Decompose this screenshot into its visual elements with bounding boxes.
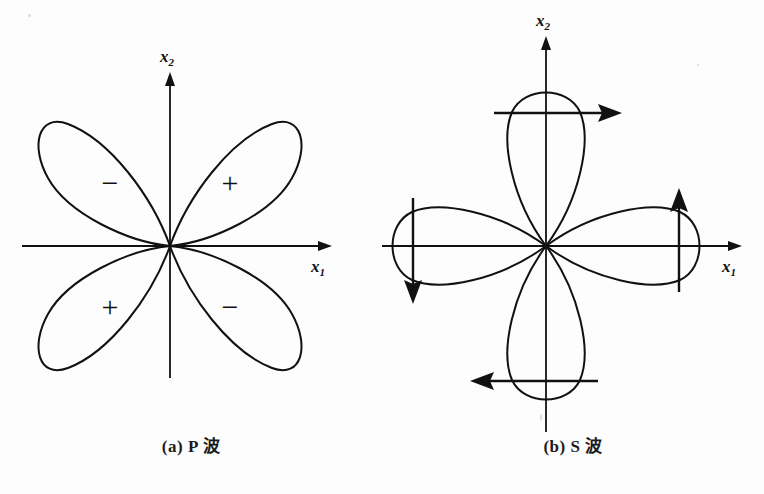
figure-root: − + + − x1 x2 (a) P 波 bbox=[0, 0, 764, 494]
scan-speck bbox=[540, 414, 542, 421]
p-wave-x-axis-label: x1 bbox=[310, 257, 325, 278]
p-wave-diagram: − + + − x1 x2 bbox=[0, 0, 382, 440]
panel-p-wave: − + + − x1 x2 (a) P 波 bbox=[0, 0, 382, 494]
s-wave-diagram: x1 x2 bbox=[382, 0, 764, 440]
panel-s-wave: x1 x2 (b) S 波 bbox=[382, 0, 764, 494]
p-wave-y-axis bbox=[165, 72, 175, 378]
s-wave-x-axis bbox=[382, 241, 742, 251]
scan-speck bbox=[697, 64, 699, 66]
p-wave-sign-lower-right: − bbox=[222, 290, 239, 323]
caption-s-wave: (b) S 波 bbox=[382, 432, 764, 457]
p-wave-y-axis-label: x2 bbox=[159, 47, 175, 68]
p-wave-sign-upper-right: + bbox=[222, 166, 239, 199]
caption-p-wave: (a) P 波 bbox=[0, 432, 382, 457]
s-wave-y-axis-label: x2 bbox=[535, 11, 551, 32]
s-wave-arrow-top bbox=[494, 104, 622, 122]
s-wave-x-axis-label: x1 bbox=[721, 257, 736, 278]
s-wave-arrow-bottom bbox=[470, 372, 598, 390]
p-wave-sign-upper-left: − bbox=[102, 166, 119, 199]
scan-speck bbox=[28, 14, 31, 17]
p-wave-sign-lower-left: + bbox=[102, 290, 119, 323]
s-wave-y-axis bbox=[541, 36, 551, 432]
